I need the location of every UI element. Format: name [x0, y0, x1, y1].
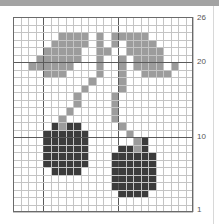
- row-label-20: 20: [197, 58, 206, 66]
- top-header-bar: [0, 0, 219, 6]
- row-label-1: 1: [197, 206, 201, 214]
- stitch-chart-grid: [13, 17, 193, 212]
- row-label-10: 10: [197, 133, 206, 141]
- page-edge-rule: [213, 6, 214, 224]
- chart-frame: [13, 17, 193, 212]
- grid-column-line: [193, 17, 194, 212]
- grid-row-line: [13, 212, 193, 213]
- row-label-26: 26: [197, 14, 206, 22]
